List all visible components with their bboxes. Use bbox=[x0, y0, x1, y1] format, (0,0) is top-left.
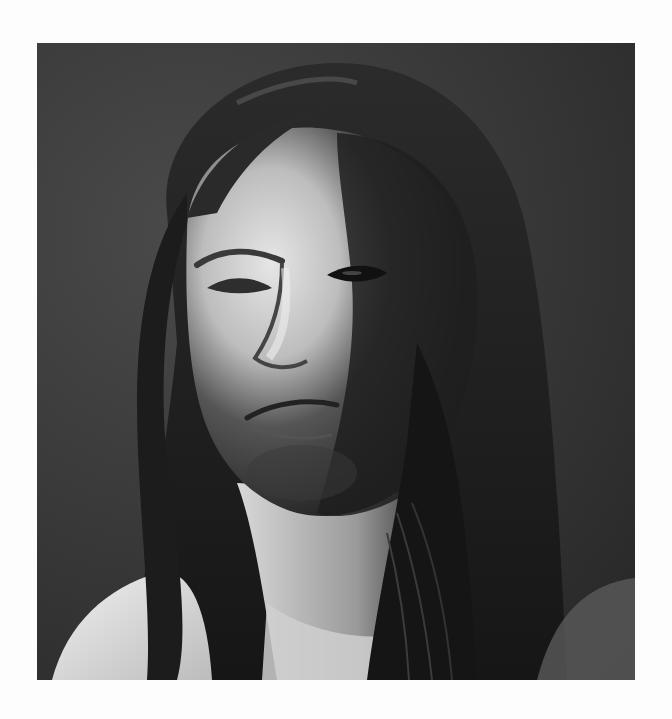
portrait-photo bbox=[37, 43, 635, 680]
portrait-illustration bbox=[37, 43, 635, 680]
left-shoulder bbox=[52, 572, 212, 680]
